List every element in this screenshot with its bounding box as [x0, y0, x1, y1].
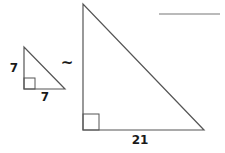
large-right-angle-marker [83, 114, 99, 130]
large-triangle: 21 [83, 4, 204, 147]
large-horizontal-leg-label: 21 [132, 133, 149, 147]
small-horizontal-leg-label: 7 [41, 90, 49, 104]
small-triangle: 7 7 [10, 47, 65, 104]
small-triangle-shape [24, 47, 65, 89]
large-triangle-shape [83, 4, 204, 130]
similar-triangles-diagram: 7 7 ~ 21 [0, 0, 225, 153]
small-right-angle-marker [24, 78, 35, 89]
similarity-symbol: ~ [61, 54, 74, 72]
small-vertical-leg-label: 7 [10, 61, 18, 75]
